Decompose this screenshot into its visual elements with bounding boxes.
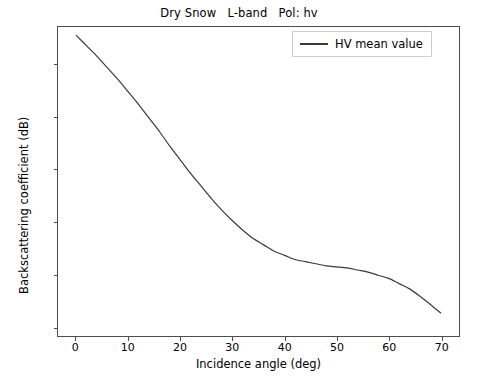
x-tick-label: 0 [72,341,79,354]
x-axis-label: Incidence angle (deg) [57,357,460,371]
curve-hv-mean-value [76,35,441,313]
y-axis-label: Backscattering coefficient (dB) [17,117,31,294]
legend-box: HV mean value [292,31,432,57]
x-tick-mark [337,337,338,341]
x-tick-mark [180,337,181,341]
x-tick-label: 40 [278,341,292,354]
figure-canvas: Dry Snow L-band Pol: hv Backscattering c… [0,0,478,379]
x-tick-label: 30 [225,341,239,354]
x-tick-mark [128,337,129,341]
x-tick-label: 70 [435,341,449,354]
plot-area [57,26,460,337]
x-tick-mark [232,337,233,341]
x-tick-mark [285,337,286,341]
x-tick-label: 60 [382,341,396,354]
x-tick-mark [389,337,390,341]
legend-entry-label: HV mean value [335,37,423,51]
data-line-hv-mean-value [58,27,459,336]
x-tick-label: 20 [173,341,187,354]
x-tick-mark [442,337,443,341]
x-tick-mark [75,337,76,341]
x-tick-label: 50 [330,341,344,354]
chart-title: Dry Snow L-band Pol: hv [0,6,478,20]
x-tick-label: 10 [121,341,135,354]
legend-line-swatch [300,43,328,44]
